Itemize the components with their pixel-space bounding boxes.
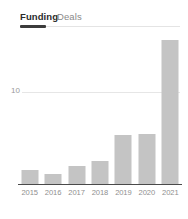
bar-2016[interactable] (45, 174, 62, 184)
bar-slot (18, 30, 41, 184)
x-axis-line (18, 184, 182, 185)
xtick-2016: 2016 (41, 188, 64, 198)
bar-slot (159, 30, 182, 184)
bar-slot (88, 30, 111, 184)
x-axis-tick-labels: 2015 2016 2017 2018 2019 2020 2021 (18, 188, 182, 202)
funding-chart-widget: Funding Deals 10 (0, 0, 188, 219)
bar-2018[interactable] (91, 161, 108, 184)
bar-2020[interactable] (138, 134, 155, 184)
xtick-2021: 2021 (159, 188, 182, 198)
chart-plot-area: 10 2015 (0, 30, 188, 219)
bar-group (18, 30, 182, 184)
bar-slot (41, 30, 64, 184)
bar-2019[interactable] (115, 135, 132, 184)
bar-slot (135, 30, 158, 184)
xtick-2020: 2020 (135, 188, 158, 198)
xtick-2019: 2019 (112, 188, 135, 198)
chart-tabbar: Funding Deals (0, 0, 188, 30)
bar-2017[interactable] (68, 166, 85, 184)
tab-funding[interactable]: Funding (20, 11, 58, 22)
tab-deals[interactable]: Deals (57, 11, 82, 22)
xtick-2015: 2015 (18, 188, 41, 198)
bar-slot (112, 30, 135, 184)
xtick-2017: 2017 (65, 188, 88, 198)
active-tab-indicator (20, 25, 46, 28)
bar-slot (65, 30, 88, 184)
xtick-2018: 2018 (88, 188, 111, 198)
bar-2015[interactable] (21, 170, 38, 184)
bar-2021[interactable] (162, 40, 179, 184)
